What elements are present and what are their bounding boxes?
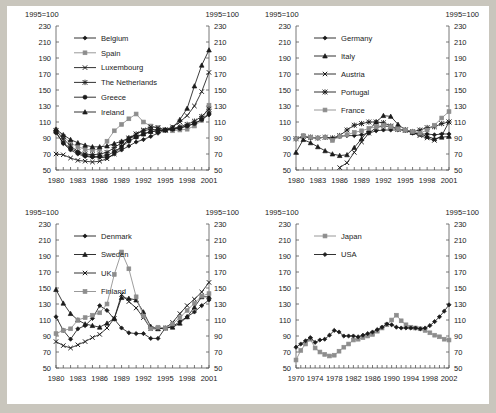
svg-text:230: 230 [278, 22, 291, 31]
page-root: 1995=100 1995=100 5050707090901101101301… [0, 0, 496, 413]
panel-3-header-right: 1995=100 [205, 208, 239, 217]
svg-text:70: 70 [283, 150, 291, 159]
svg-text:230: 230 [278, 220, 291, 229]
svg-text:2001: 2001 [201, 374, 218, 383]
svg-text:130: 130 [38, 102, 51, 111]
svg-text:1978: 1978 [326, 374, 343, 383]
svg-text:1982: 1982 [345, 374, 362, 383]
svg-text:50: 50 [454, 364, 462, 373]
panel-4-plot: 5050707090901101101301301501501701701901… [255, 218, 487, 400]
svg-text:210: 210 [214, 38, 227, 47]
svg-text:1980: 1980 [48, 374, 65, 383]
svg-text:150: 150 [214, 284, 227, 293]
svg-text:150: 150 [454, 284, 467, 293]
svg-text:70: 70 [214, 348, 222, 357]
legend-entry: Finland [74, 287, 126, 296]
svg-text:Denmark: Denmark [101, 232, 132, 241]
panel-4-header-right: 1995=100 [445, 208, 479, 217]
svg-text:USA: USA [341, 250, 358, 259]
svg-text:110: 110 [454, 118, 466, 127]
svg-text:230: 230 [214, 220, 227, 229]
svg-text:230: 230 [38, 220, 51, 229]
svg-text:Finland: Finland [101, 287, 126, 296]
svg-text:170: 170 [278, 268, 291, 277]
svg-text:1992: 1992 [375, 176, 392, 185]
svg-text:130: 130 [278, 102, 291, 111]
svg-text:1986: 1986 [331, 176, 348, 185]
svg-text:The Netherlands: The Netherlands [101, 78, 157, 87]
svg-text:90: 90 [454, 332, 462, 341]
svg-text:50: 50 [43, 166, 51, 175]
panel-1-header-right: 1995=100 [205, 10, 239, 19]
svg-text:210: 210 [38, 236, 51, 245]
svg-text:110: 110 [39, 316, 51, 325]
svg-text:50: 50 [283, 166, 291, 175]
svg-text:70: 70 [454, 348, 462, 357]
chart-panel-3: 1995=100 1995=100 5050707090901101101301… [15, 208, 247, 400]
svg-text:1992: 1992 [135, 176, 152, 185]
svg-text:70: 70 [214, 150, 222, 159]
svg-text:90: 90 [214, 134, 222, 143]
svg-text:1994: 1994 [402, 374, 419, 383]
svg-text:90: 90 [214, 332, 222, 341]
svg-text:Austria: Austria [341, 70, 365, 79]
svg-text:170: 170 [38, 70, 51, 79]
svg-text:1998: 1998 [179, 176, 196, 185]
svg-text:190: 190 [38, 252, 51, 261]
svg-text:1992: 1992 [135, 374, 152, 383]
svg-text:Portugal: Portugal [341, 88, 370, 97]
svg-text:110: 110 [39, 118, 51, 127]
svg-text:Spain: Spain [101, 49, 120, 58]
svg-text:1983: 1983 [310, 176, 327, 185]
svg-text:110: 110 [214, 118, 226, 127]
svg-text:UK: UK [101, 269, 112, 278]
svg-text:70: 70 [43, 150, 51, 159]
svg-text:1980: 1980 [288, 176, 305, 185]
svg-text:50: 50 [43, 364, 51, 373]
legend-entry: Greece [74, 93, 126, 102]
svg-text:70: 70 [454, 150, 462, 159]
svg-text:Greece: Greece [101, 93, 126, 102]
chart-panel-1: 1995=100 1995=100 5050707090901101101301… [15, 10, 247, 202]
svg-text:170: 170 [454, 268, 467, 277]
svg-text:130: 130 [38, 300, 51, 309]
svg-text:Belgium: Belgium [101, 34, 128, 43]
svg-text:90: 90 [454, 134, 462, 143]
svg-text:Germany: Germany [341, 34, 372, 43]
svg-text:150: 150 [38, 284, 51, 293]
svg-text:1998: 1998 [179, 374, 196, 383]
svg-text:150: 150 [278, 284, 291, 293]
legend-entry: Belgium [74, 34, 128, 43]
svg-text:130: 130 [214, 102, 227, 111]
legend-entry: Spain [74, 49, 120, 58]
legend-entry: Germany [314, 34, 372, 43]
svg-text:150: 150 [214, 86, 227, 95]
svg-text:1986: 1986 [91, 176, 108, 185]
legend-entry: Denmark [74, 232, 132, 241]
svg-text:Italy: Italy [341, 52, 355, 61]
svg-text:170: 170 [454, 70, 467, 79]
svg-text:110: 110 [279, 316, 291, 325]
svg-text:170: 170 [214, 70, 227, 79]
svg-text:210: 210 [278, 38, 291, 47]
svg-text:1974: 1974 [307, 374, 324, 383]
svg-text:130: 130 [454, 102, 467, 111]
svg-text:230: 230 [454, 22, 467, 31]
svg-text:150: 150 [278, 86, 291, 95]
svg-text:190: 190 [38, 54, 51, 63]
svg-text:1995: 1995 [157, 374, 174, 383]
svg-text:90: 90 [283, 134, 291, 143]
svg-text:France: France [341, 106, 365, 115]
svg-text:190: 190 [454, 252, 467, 261]
chart-panel-4: 1995=100 1995=100 5050707090901101101301… [255, 208, 487, 400]
svg-text:1995: 1995 [397, 176, 414, 185]
svg-text:210: 210 [38, 38, 51, 47]
panel-2-header-left: 1995=100 [265, 10, 299, 19]
legend-entry: Ireland [74, 108, 124, 117]
svg-text:190: 190 [278, 54, 291, 63]
svg-text:70: 70 [283, 348, 291, 357]
svg-text:1989: 1989 [113, 176, 130, 185]
svg-text:2002: 2002 [441, 374, 458, 383]
legend-entry: The Netherlands [74, 78, 157, 87]
svg-text:150: 150 [454, 86, 467, 95]
